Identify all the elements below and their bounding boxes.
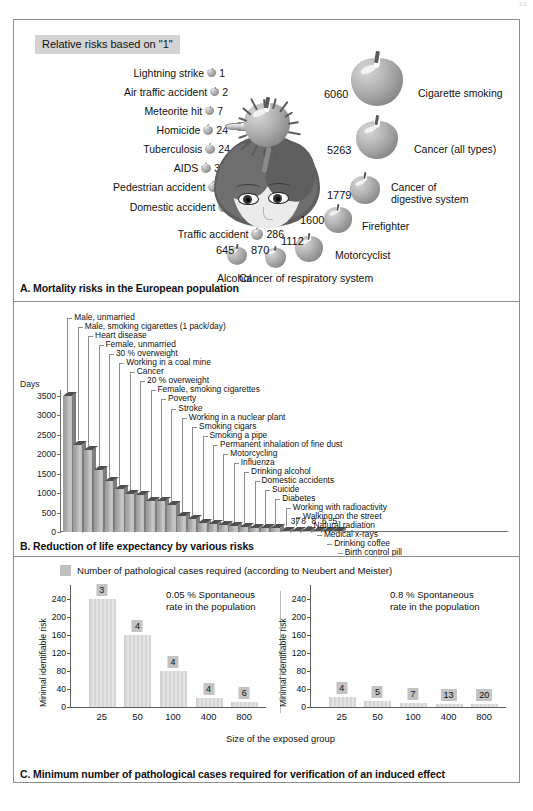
- panel-b-bar: [209, 524, 218, 532]
- panel-c-bar: [364, 701, 391, 707]
- apple-icon: [350, 176, 380, 204]
- panel-b-value-label: 37: [291, 516, 300, 526]
- panel-b-leader-line: [161, 399, 162, 496]
- panel-a-caption: A. Mortality risks in the European popul…: [20, 282, 239, 294]
- panel-c-note-line1: 0.8 % Spontaneous: [390, 589, 474, 600]
- panel-c-value-label: 13: [441, 689, 457, 701]
- risk-label: AIDS: [174, 162, 199, 174]
- panel-b-leader-line: [234, 463, 235, 522]
- risk-label: Homicide: [157, 124, 201, 136]
- panel-b-y-tick-label: 3500: [18, 391, 56, 401]
- panel-c-y-tick: [67, 671, 71, 672]
- panel-c-x-tick-label: 100: [165, 711, 181, 722]
- risk-value: 1: [219, 67, 225, 79]
- panel-b-y-tick-label: 500: [18, 508, 56, 518]
- panel-c-y-tick: [307, 653, 311, 654]
- panel-c-y-tick: [67, 653, 71, 654]
- panel-b-life-expectancy: Days 0500100015002000250030003500 Male, …: [14, 302, 519, 556]
- panel-c-bar: [436, 704, 463, 707]
- risk-label: Cigarette smoking: [418, 88, 503, 100]
- risk-label: Firefighter: [362, 221, 409, 233]
- panel-b-y-tick: [57, 396, 61, 397]
- panel-b-category-label: Birth control pill: [345, 548, 402, 556]
- panel-b-leader-tick: [161, 399, 166, 400]
- risk-label: Traffic accident: [178, 228, 249, 240]
- risk-value: 5263: [327, 144, 351, 156]
- panel-c-value-label: 5: [372, 686, 383, 698]
- panel-b-bar: [261, 528, 270, 532]
- panel-b-leader-line: [88, 336, 89, 446]
- panel-c-x-tick-label: 400: [441, 711, 457, 722]
- panel-b-leader-line: [67, 318, 68, 392]
- panel-c-value-label: 6: [239, 687, 250, 699]
- panel-c-y-tick: [67, 707, 71, 708]
- panel-b-leader-tick: [67, 318, 72, 319]
- panel-b-leader-tick: [265, 490, 270, 491]
- panel-b-value-label: 5: [332, 516, 337, 526]
- panel-b-caption: B. Reduction of life expectancy by vario…: [20, 540, 254, 552]
- panel-b-bar: [125, 494, 134, 532]
- right-eye-icon: [268, 192, 289, 204]
- risk-value: 1600: [300, 214, 324, 226]
- apple-spike: [287, 121, 298, 125]
- risk-value: 870: [251, 244, 269, 256]
- panel-c-y-tick: [307, 689, 311, 690]
- risk-value: 2: [222, 86, 228, 98]
- panel-c-value-label: 4: [203, 683, 214, 695]
- panel-c-bar: [329, 697, 356, 707]
- panel-c-y-tick-label: 80: [284, 666, 306, 676]
- panel-c-y-tick: [307, 617, 311, 618]
- panel-c-legend: Number of pathological cases required (a…: [60, 565, 392, 576]
- legend-swatch-icon: [60, 565, 71, 576]
- panel-a-risk-row: Lightning strike1: [14, 66, 225, 79]
- panel-c-y-tick: [67, 599, 71, 600]
- panel-c-x-tick-label: 400: [201, 711, 217, 722]
- panel-c-value-label: 4: [336, 682, 347, 694]
- panel-c-y-tick-label: 240: [284, 594, 306, 604]
- panel-a-risk-row: AIDS32: [14, 161, 226, 174]
- apple-icon: [251, 229, 263, 240]
- panel-c-y-tick: [67, 689, 71, 690]
- panel-c-bar: [124, 635, 151, 707]
- panel-b-leader-line: [119, 363, 120, 485]
- panel-c-value-label: 20: [476, 689, 492, 701]
- panel-c-y-tick: [307, 671, 311, 672]
- panel-a-risk-row: Air traffic accident2: [14, 85, 228, 98]
- panel-c-y-tick-label: 120: [284, 648, 306, 658]
- panel-c-y-tick-label: 0: [284, 702, 306, 712]
- panel-b-y-tick: [57, 513, 61, 514]
- panel-c-bar: [400, 703, 427, 707]
- panel-c-x-tick-label: 25: [337, 711, 347, 722]
- risk-value: 645: [216, 244, 234, 256]
- panel-c-bar: [160, 671, 187, 707]
- risk-label: Lightning strike: [134, 67, 205, 79]
- figure-frame: Relative risks based on "1" Lightning st…: [13, 19, 520, 783]
- panel-b-leader-line: [78, 327, 79, 440]
- page-number: 21: [519, 1, 527, 7]
- risk-label: Tuberculosis: [143, 143, 202, 155]
- apple-icon: [351, 58, 403, 106]
- panel-b-leader-tick: [130, 372, 135, 373]
- panel-a-risk-row: Meteorite hit7: [14, 104, 223, 117]
- panel-b-value-label: 8: [312, 516, 317, 526]
- panel-c-y-tick-label: 0: [44, 702, 66, 712]
- panel-c-note-line2: rate in the population: [390, 601, 480, 612]
- panel-b-bar: [94, 470, 103, 532]
- panel-b-leader-line: [140, 381, 141, 491]
- panel-b-leader-line: [213, 445, 214, 521]
- panel-c-value-label: 4: [132, 620, 143, 632]
- panel-b-leader-tick: [109, 354, 114, 355]
- panel-c-x-tick-label: 50: [372, 711, 382, 722]
- panel-c-y-tick: [67, 617, 71, 618]
- panel-b-bar: [105, 481, 114, 532]
- panel-b-bar: [302, 531, 311, 533]
- panel-b-y-tick-label: 2500: [18, 430, 56, 440]
- panel-b-bar: [146, 501, 155, 532]
- panel-b-leader-tick: [171, 409, 176, 410]
- panel-b-y-tick: [57, 532, 61, 533]
- panel-c-y-tick: [307, 707, 311, 708]
- panel-c-x-tick-label: 800: [236, 711, 252, 722]
- panel-b-bar: [177, 516, 186, 532]
- panel-c-y-tick-label: 200: [44, 612, 66, 622]
- panel-c-y-tick: [307, 635, 311, 636]
